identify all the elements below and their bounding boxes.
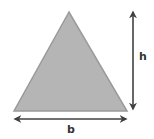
height-label: h [139,50,147,63]
base-label: b [67,123,75,136]
triangle-diagram: h b [0,0,154,139]
triangle-shape [14,12,127,111]
